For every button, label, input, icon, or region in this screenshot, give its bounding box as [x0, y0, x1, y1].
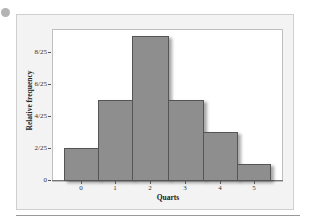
y-axis-label: Relative frequency: [25, 56, 34, 146]
x-tick-label: 3: [179, 184, 191, 192]
x-tick-label: 1: [109, 184, 121, 192]
x-tick-label: 4: [214, 184, 226, 192]
x-tick-label: 5: [248, 184, 260, 192]
x-tick-label: 2: [144, 184, 156, 192]
divider-line: [16, 215, 300, 216]
bar-4: [203, 132, 238, 181]
y-tick-mark: [48, 116, 51, 117]
y-tick-mark: [48, 84, 51, 85]
bar-2: [132, 36, 169, 181]
x-axis-label: Quarts: [148, 193, 188, 202]
bar-0: [64, 148, 99, 181]
y-tick-mark: [48, 52, 51, 53]
y-tick-label: 0: [17, 176, 47, 184]
bar-3: [168, 100, 204, 181]
bar-5: [237, 164, 271, 181]
bar-1: [98, 100, 133, 181]
x-tick-label: 0: [75, 184, 87, 192]
y-tick-mark: [48, 148, 51, 149]
bullet-dot-icon: [1, 8, 10, 17]
y-tick-mark: [48, 180, 51, 181]
